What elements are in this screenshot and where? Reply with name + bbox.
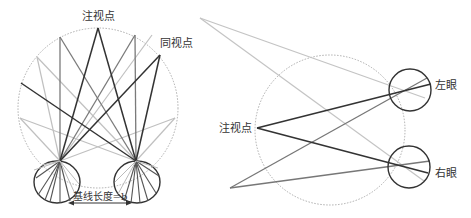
- right-eye-label: 右眼: [435, 166, 457, 180]
- baseline-label: 基线长度=b: [73, 190, 128, 202]
- fixation-point-label: 注视点: [82, 9, 115, 23]
- right-eye: [388, 146, 430, 188]
- left-eye-label: 左眼: [435, 79, 457, 92]
- fixation-point-label: 注视点: [219, 121, 252, 135]
- corresponding-point-label: 同视点: [160, 36, 193, 50]
- right-panel: 注视点 左眼 右眼: [200, 18, 457, 205]
- mid-sight-lines: [60, 35, 136, 161]
- mid-sight-lines: [230, 78, 430, 188]
- horopter-circle: [255, 55, 405, 205]
- binocular-vision-diagram: 注视点 同视点 基线长度=b 注视点 左眼 右眼: [0, 0, 471, 218]
- left-panel: 注视点 同视点 基线长度=b: [18, 9, 193, 206]
